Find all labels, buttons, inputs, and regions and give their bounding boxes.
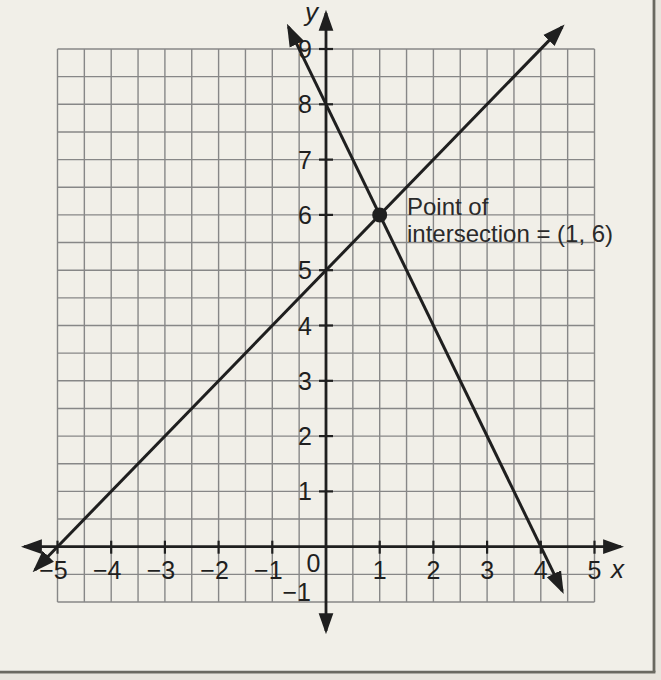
y-tick-label: 3 xyxy=(298,367,312,395)
y-tick-label: 4 xyxy=(298,312,312,340)
x-tick-label: −1 xyxy=(254,556,283,584)
x-tick-label: 3 xyxy=(480,556,494,584)
intersection-annotation: Point of intersection = (1, 6) xyxy=(407,193,613,247)
x-tick-label: 2 xyxy=(426,556,440,584)
intersection-dot xyxy=(372,207,387,222)
annotation-line-2: intersection = (1, 6) xyxy=(407,220,613,247)
y-tick-label: 2 xyxy=(298,422,312,450)
y-tick-label: 6 xyxy=(298,201,312,229)
page-edge-bottom xyxy=(0,674,661,680)
origin-label: 0 xyxy=(307,549,321,577)
x-tick-label: −4 xyxy=(93,556,122,584)
y-axis-label: y xyxy=(303,0,320,27)
annotation-line-1: Point of xyxy=(407,193,613,220)
y-tick-label: 7 xyxy=(298,146,312,174)
coordinate-plane: −5−4−3−2−1012345−1123456789xy xyxy=(0,0,661,680)
y-tick-label: 8 xyxy=(298,90,312,118)
worksheet-page: −5−4−3−2−1012345−1123456789xy Point of i… xyxy=(0,0,661,680)
x-tick-label: 1 xyxy=(373,556,387,584)
y-tick-label: 1 xyxy=(298,477,312,505)
page-edge-right xyxy=(656,0,661,680)
y-tick-label: −1 xyxy=(282,578,311,606)
x-tick-label: −3 xyxy=(147,556,176,584)
x-tick-label: 5 xyxy=(588,556,602,584)
x-tick-label: −2 xyxy=(200,556,229,584)
x-axis-label: x xyxy=(609,554,625,584)
y-tick-label: 5 xyxy=(298,256,312,284)
